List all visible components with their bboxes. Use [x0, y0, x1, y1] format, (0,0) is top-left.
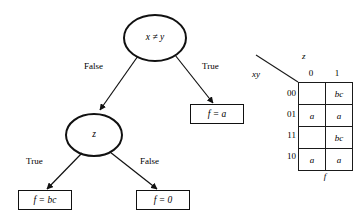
kmap-cell: a [299, 105, 326, 127]
edge-label-root-false: False [84, 62, 103, 71]
leaf-node-f-equals-0: f = 0 [136, 190, 190, 210]
kmap-function-label: f [298, 171, 352, 181]
kmap-cell [299, 83, 326, 105]
node-z-label: z [79, 130, 109, 140]
leaf-node-f-equals-a: f = a [190, 104, 244, 124]
kmap-row: bc [299, 127, 353, 149]
kmap-row-header-01: 01 [276, 109, 296, 119]
kmap-row: a a [299, 105, 353, 127]
kmap-cell: bc [326, 127, 353, 149]
kmap-row-header-00: 00 [276, 88, 296, 98]
kmap-cell: a [326, 149, 353, 171]
edge-label-z-true: True [26, 157, 43, 166]
edge-label-z-false: False [140, 157, 159, 166]
kmap-cell: bc [326, 83, 353, 105]
karnaugh-map: z xy 0 1 00 01 11 10 bc a a bc a a [250, 50, 354, 175]
kmap-row: a a [299, 149, 353, 171]
kmap-cell [299, 127, 326, 149]
kmap-cell: a [299, 149, 326, 171]
kmap-col-header-0: 0 [298, 68, 324, 78]
leaf-node-f-equals-bc: f = bc [18, 190, 72, 210]
kmap-axis-label-xy: xy [252, 69, 260, 79]
kmap-row: bc [299, 83, 353, 105]
decision-tree-figure: x ≠ y z False True True False f = a f = … [0, 0, 354, 223]
node-root-label: x ≠ y [135, 33, 175, 43]
kmap-axis-label-z: z [302, 51, 306, 61]
kmap-cell: a [326, 105, 353, 127]
edge-root-false-line [100, 56, 138, 110]
kmap-col-header-1: 1 [324, 68, 350, 78]
edge-label-root-true: True [202, 62, 219, 71]
kmap-row-header-10: 10 [276, 151, 296, 161]
kmap-table: bc a a bc a a [298, 82, 353, 171]
kmap-row-header-11: 11 [276, 130, 296, 140]
edge-z-true-line [47, 153, 82, 189]
